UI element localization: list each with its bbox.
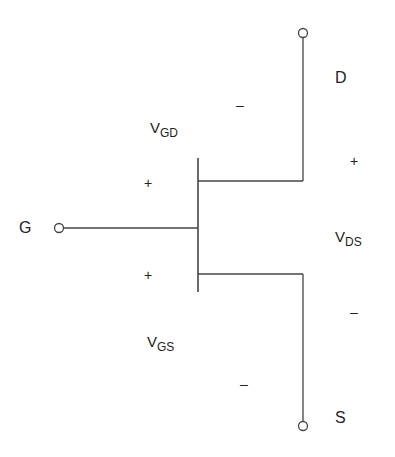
- vgd-sub: GD: [160, 126, 178, 140]
- vgd-main: V: [150, 119, 160, 136]
- vgd-label: VGD: [150, 120, 178, 139]
- source-terminal-circle: [299, 422, 308, 431]
- gate-terminal-circle: [55, 224, 64, 233]
- drain-terminal-circle: [299, 29, 308, 38]
- vds-minus-sign: –: [350, 305, 358, 319]
- vgs-plus-sign: +: [144, 268, 152, 282]
- vds-sub: DS: [345, 235, 362, 249]
- vds-main: V: [335, 228, 345, 245]
- drain-label: D: [335, 70, 347, 86]
- source-label: S: [335, 410, 346, 426]
- vds-plus-sign: +: [350, 154, 358, 168]
- vgd-plus-sign: +: [144, 176, 152, 190]
- vgs-main: V: [147, 333, 157, 350]
- vgd-minus-sign: –: [236, 98, 244, 112]
- vgs-label: VGS: [147, 334, 174, 353]
- vds-label: VDS: [335, 229, 362, 248]
- vgs-minus-sign: –: [240, 377, 248, 391]
- vgs-sub: GS: [157, 340, 174, 354]
- gate-label: G: [19, 220, 31, 236]
